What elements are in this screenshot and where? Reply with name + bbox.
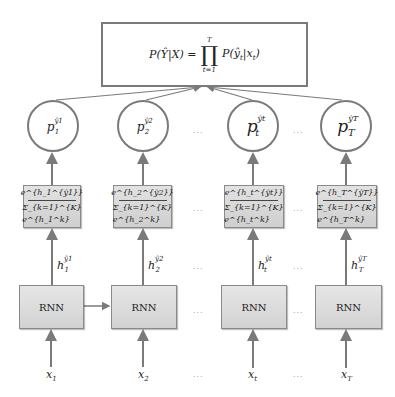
formula-rhs: P(ŷt|xt) <box>222 47 260 62</box>
ellipsis: ... <box>193 204 204 213</box>
probability-node-1: pŷ11 <box>27 100 79 152</box>
ellipsis: ... <box>293 204 304 213</box>
formula-lhs: P(Ŷ|X) = <box>149 48 197 61</box>
input-label-2: x2 <box>138 368 149 383</box>
ellipsis: ... <box>293 126 304 135</box>
softmax-box-1: e^{h_1^{ŷ1}} Σ_{k=1}^{K} e^{h_1^k} <box>23 185 81 228</box>
ellipsis: ... <box>193 306 204 315</box>
probability-node-2: pŷ22 <box>117 100 169 152</box>
softmax-box-T: e^{h_T^{ŷT}} Σ_{k=1}^{K} e^{h_T^k} <box>317 185 377 228</box>
softmax-numerator: e^{h_2^{ŷ2}} <box>111 187 173 199</box>
ellipsis: ... <box>193 126 204 135</box>
product-operator: T ∏ t=1 <box>201 36 219 74</box>
probability-node-T: pŷTT <box>320 100 372 152</box>
softmax-denominator: Σ_{k=1}^{K} e^{h_t^k} <box>224 202 283 226</box>
arrow-p1-to-output <box>56 87 200 100</box>
softmax-numerator: e^{h_T^{ŷT}} <box>316 187 379 199</box>
hidden-state-label-2: hŷ22 <box>148 255 160 274</box>
rnn-cell-2: RNN <box>111 285 177 329</box>
softmax-box-2: e^{h_2^{ŷ2}} Σ_{k=1}^{K} e^{h_2^k} <box>113 185 172 228</box>
ellipsis: ... <box>293 370 304 379</box>
ellipsis: ... <box>193 262 204 271</box>
sequence-probability-formula: P(Ŷ|X) = T ∏ t=1 P(ŷt|xt) <box>149 36 260 74</box>
input-label-1: x1 <box>46 368 57 383</box>
ellipsis: ... <box>293 306 304 315</box>
softmax-denominator: Σ_{k=1}^{K} e^{h_T^k} <box>317 202 376 226</box>
hidden-state-label-1: hŷ11 <box>57 255 69 274</box>
probability-node-t: pŷtt <box>227 100 279 152</box>
softmax-numerator: e^{h_t^{ŷt}} <box>225 187 284 199</box>
softmax-box-t: e^{h_t^{ŷt}} Σ_{k=1}^{K} e^{h_t^k} <box>224 185 284 228</box>
rnn-cell-T: RNN <box>315 285 382 329</box>
sequence-probability-box: P(Ŷ|X) = T ∏ t=1 P(ŷt|xt) <box>101 22 308 87</box>
rnn-cell-1: RNN <box>19 285 84 329</box>
hidden-state-label-T: hŷTT <box>351 255 363 274</box>
softmax-denominator: Σ_{k=1}^{K} e^{h_2^k} <box>113 202 172 226</box>
softmax-denominator: Σ_{k=1}^{K} e^{h_1^k} <box>22 202 81 226</box>
input-label-t: xt <box>248 368 257 383</box>
rnn-cell-t: RNN <box>221 285 287 329</box>
hidden-state-label-t: hŷtt <box>258 255 267 274</box>
input-label-T: xT <box>341 368 352 383</box>
ellipsis: ... <box>193 370 204 379</box>
softmax-numerator: e^{h_1^{ŷ1}} <box>21 187 83 199</box>
ellipsis: ... <box>293 262 304 271</box>
rnn-sequence-diagram: P(Ŷ|X) = T ∏ t=1 P(ŷt|xt) pŷ11 pŷ22 pŷtt… <box>0 0 395 397</box>
